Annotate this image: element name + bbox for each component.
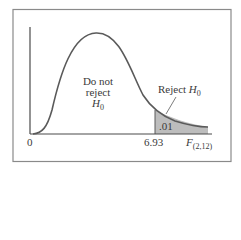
tail-area-label: .01 [159, 121, 173, 132]
h0-label: H0 [78, 98, 118, 113]
x-tick-zero: 0 [27, 137, 33, 148]
x-tick-critical: 6.93 [144, 137, 163, 148]
reject-h0-label: Reject H0 [158, 84, 201, 99]
x-axis-label: F(2,12) [186, 137, 212, 152]
reject-leader-line [166, 97, 176, 114]
